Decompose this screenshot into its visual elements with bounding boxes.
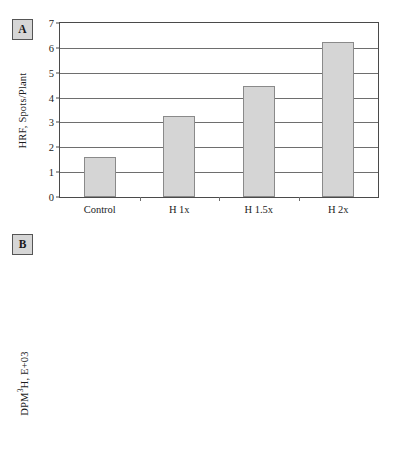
y-axis-tick-mark [56, 23, 60, 24]
x-axis-category-label: H 2x [328, 204, 349, 215]
y-axis-tick-label: 1 [49, 167, 54, 178]
x-axis-category-label: H 1x [169, 204, 190, 215]
y-axis-tick-mark [56, 172, 60, 173]
bar-h-1x [163, 116, 195, 197]
y-axis-tick-label: 2 [49, 142, 54, 153]
y-axis-tick-label: 7 [49, 18, 54, 29]
panel-b-y-axis-title-superscript: 3 [16, 388, 25, 392]
panel-a-plot-area: 01234567ControlH 1xH 1.5xH 2x [59, 22, 379, 198]
y-axis-tick-label: 4 [49, 92, 54, 103]
panel-b-label: B [12, 234, 33, 255]
y-axis-tick-mark [56, 122, 60, 123]
bar-h-1.5x [243, 86, 275, 197]
y-axis-tick-mark [56, 197, 60, 198]
y-axis-tick-mark [56, 72, 60, 73]
y-axis-tick-label: 0 [49, 192, 54, 203]
figure-container: A HRF, Spots/Plant 01234567ControlH 1xH … [0, 0, 394, 449]
x-axis-category-label: Control [84, 204, 116, 215]
panel-a-y-axis-title-text: HRF, Spots/Plant [17, 73, 28, 149]
panel-a: A HRF, Spots/Plant 01234567ControlH 1xH … [0, 0, 394, 226]
x-axis-tick-mark [299, 197, 300, 201]
y-axis-tick-mark [56, 147, 60, 148]
panel-b-y-axis-title-tail: H, E+03 [19, 351, 30, 388]
panel-a-label: A [12, 19, 33, 40]
panel-b-y-axis-title-main: DPM [19, 392, 30, 415]
x-axis-tick-mark [219, 197, 220, 201]
x-axis-category-label: H 1.5x [244, 204, 273, 215]
y-axis-tick-label: 3 [49, 117, 54, 128]
panel-b: B DPM3H, E+03 01020304050ControlH 1x*H 1… [0, 226, 394, 449]
y-axis-tick-mark [56, 47, 60, 48]
bar-h-2x [322, 42, 354, 197]
y-axis-tick-label: 6 [49, 42, 54, 53]
x-axis-tick-mark [140, 197, 141, 201]
bar-control [84, 157, 116, 197]
y-axis-tick-label: 5 [49, 67, 54, 78]
y-axis-tick-mark [56, 97, 60, 98]
panel-b-y-axis-title: DPM3H, E+03 [19, 329, 30, 439]
panel-a-y-axis-title: HRF, Spots/Plant [17, 56, 28, 166]
